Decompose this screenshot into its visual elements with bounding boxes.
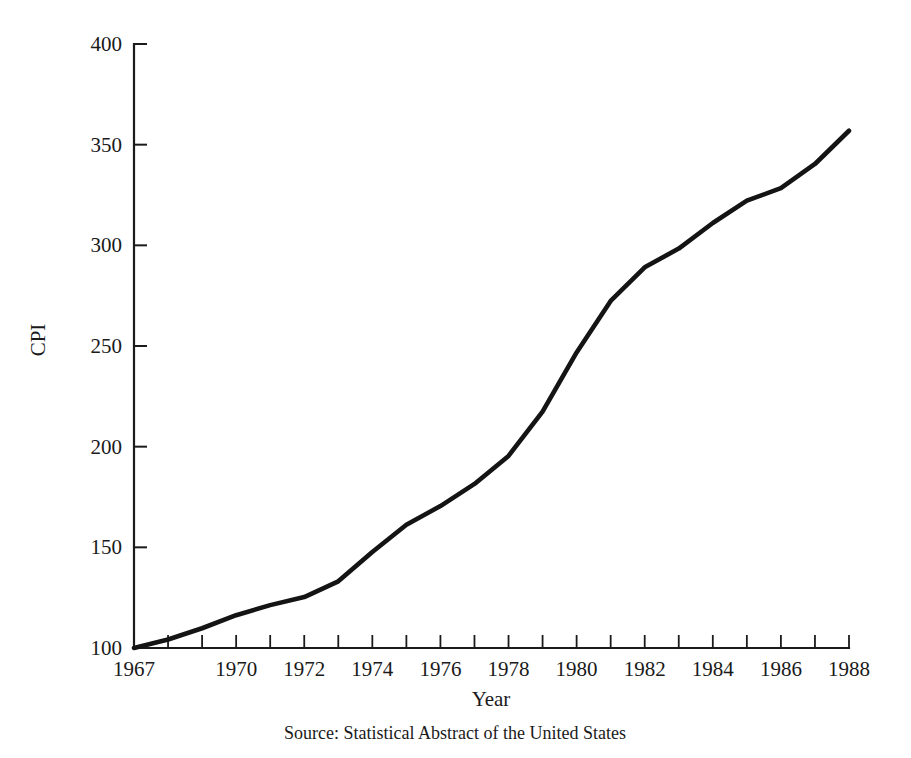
x-tick-label: 1984 bbox=[692, 657, 735, 681]
x-tick-label: 1976 bbox=[419, 657, 461, 681]
y-axis-tick-labels: 100150200250300350400 bbox=[91, 32, 123, 660]
x-tick-label: 1967 bbox=[113, 657, 155, 681]
x-tick-label: 1972 bbox=[283, 657, 325, 681]
cpi-data-line bbox=[134, 131, 849, 648]
data-series-group bbox=[134, 131, 849, 648]
y-axis-title: CPI bbox=[26, 324, 50, 357]
y-tick-label: 250 bbox=[91, 334, 123, 358]
x-tick-label: 1974 bbox=[351, 657, 394, 681]
cpi-line-chart-figure: 100150200250300350400 196719701972197419… bbox=[0, 0, 911, 758]
x-axis-ticks bbox=[134, 635, 849, 648]
axis-frame bbox=[134, 44, 849, 648]
y-tick-label: 200 bbox=[91, 435, 123, 459]
source-note: Source: Statistical Abstract of the Unit… bbox=[284, 723, 626, 743]
x-tick-label: 1978 bbox=[488, 657, 530, 681]
x-tick-label: 1982 bbox=[624, 657, 666, 681]
axes-group bbox=[134, 44, 849, 648]
y-tick-label: 150 bbox=[91, 535, 123, 559]
x-tick-label: 1980 bbox=[556, 657, 598, 681]
x-axis-title: Year bbox=[472, 687, 511, 711]
x-axis-tick-labels: 1967197019721974197619781980198219841986… bbox=[113, 657, 870, 681]
x-tick-label: 1970 bbox=[215, 657, 257, 681]
y-axis-ticks bbox=[134, 44, 147, 547]
y-tick-label: 400 bbox=[91, 32, 123, 56]
y-tick-label: 350 bbox=[91, 133, 123, 157]
chart-canvas: 100150200250300350400 196719701972197419… bbox=[0, 0, 911, 758]
y-tick-label: 300 bbox=[91, 233, 123, 257]
x-tick-label: 1986 bbox=[760, 657, 802, 681]
x-tick-label: 1988 bbox=[828, 657, 870, 681]
